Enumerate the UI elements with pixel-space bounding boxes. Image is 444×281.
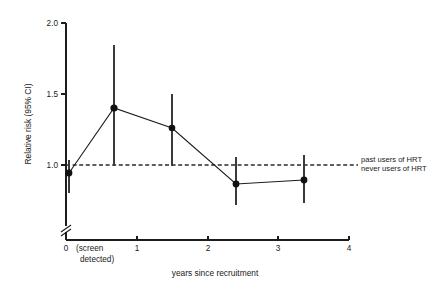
marker-2 [110,104,117,111]
marker-5 [301,177,308,184]
marker-3 [169,125,176,132]
x-tick-label-2: 2 [206,244,211,253]
annotation-past-users: past users of HRT [361,155,422,164]
y-axis-title: Relative risk (95% CI) [23,83,33,164]
annotation-never-users: never users of HRT [361,164,427,173]
origin-note-line-1: (screen [76,244,104,253]
x-tick-label-3: 3 [276,244,281,253]
x-tick-label-4: 4 [347,244,352,253]
x-tick-label-0: 0 [64,244,69,253]
y-tick-label-2.0: 2.0 [47,19,59,28]
x-tick-label-1: 1 [135,244,140,253]
marker-1 [66,170,73,177]
x-axis-title: years since recruitment [172,268,259,278]
chart-canvas: 2.0 1.5 1.0 Relative risk (95% CI) 0 1 2… [0,0,444,281]
y-tick-label-1.5: 1.5 [47,90,59,99]
y-tick-label-1.0: 1.0 [47,161,59,170]
marker-4 [233,181,240,188]
chart-background [0,0,444,281]
reference-line-annotation: past users of HRT never users of HRT [361,155,427,173]
origin-note-line-2: detected) [80,255,114,264]
relative-risk-figure: 2.0 1.5 1.0 Relative risk (95% CI) 0 1 2… [0,0,444,281]
